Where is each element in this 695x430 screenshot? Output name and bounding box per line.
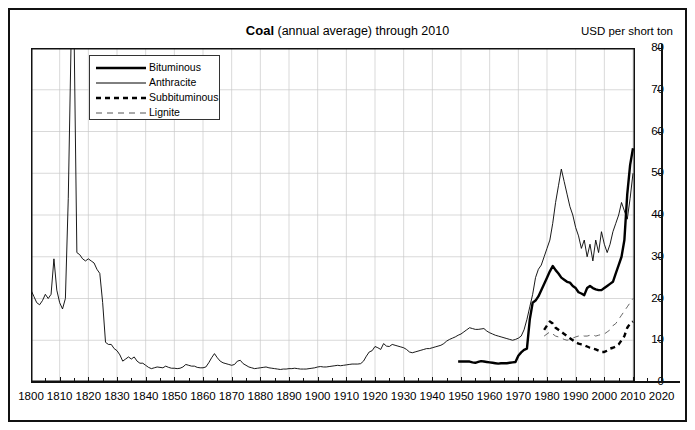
y-tick-mark (657, 299, 662, 300)
x-tick-mark (117, 377, 118, 382)
x-tick-mark (60, 377, 61, 382)
x-tick-mark (576, 377, 577, 382)
legend-item[interactable]: Subbituminous (90, 90, 219, 105)
x-tick-mark (604, 377, 605, 382)
x-tick-mark (404, 377, 405, 382)
legend-item[interactable]: Lignite (90, 105, 219, 120)
legend-line-swatch (95, 76, 147, 90)
x-minor-tick-mark (217, 378, 218, 382)
x-minor-tick-mark (418, 378, 419, 382)
y-tick-mark (657, 382, 662, 383)
y-tick-mark (657, 257, 662, 258)
x-axis-tick-labels: 1800181018201830184018501860187018801890… (0, 390, 695, 410)
x-minor-tick-mark (619, 378, 620, 382)
legend-item[interactable]: Anthracite (90, 75, 219, 90)
x-minor-tick-mark (533, 378, 534, 382)
x-minor-tick-mark (275, 378, 276, 382)
y-tick-mark (657, 215, 662, 216)
x-tick-label: 2020 (645, 390, 679, 402)
x-minor-tick-mark (74, 378, 75, 382)
x-tick-mark (174, 377, 175, 382)
x-tick-mark (31, 377, 32, 382)
x-minor-tick-mark (647, 378, 648, 382)
x-minor-tick-mark (103, 378, 104, 382)
x-minor-tick-mark (504, 378, 505, 382)
x-tick-mark (375, 377, 376, 382)
legend-item-label: Bituminous (149, 62, 201, 73)
x-tick-mark (88, 377, 89, 382)
x-minor-tick-mark (389, 378, 390, 382)
legend-line-swatch (95, 61, 147, 75)
x-tick-mark (318, 377, 319, 382)
x-tick-mark (633, 377, 634, 382)
x-tick-mark (146, 377, 147, 382)
x-tick-mark (346, 377, 347, 382)
legend-item-label: Subbituminous (149, 92, 218, 103)
x-tick-mark (260, 377, 261, 382)
chart-legend: BituminousAnthraciteSubbituminousLignite (89, 55, 220, 120)
y-tick-mark (657, 173, 662, 174)
x-minor-tick-mark (361, 378, 362, 382)
x-minor-tick-mark (447, 378, 448, 382)
x-minor-tick-mark (332, 378, 333, 382)
x-minor-tick-mark (303, 378, 304, 382)
chart-title-rest: (annual average) through 2010 (278, 24, 450, 38)
x-minor-tick-mark (189, 378, 190, 382)
chart-screenshot: Coal (annual average) through 2010 USD p… (0, 0, 695, 430)
x-tick-mark (547, 377, 548, 382)
x-tick-mark (289, 377, 290, 382)
chart-title-bold: Coal (246, 23, 274, 38)
y-tick-mark (657, 132, 662, 133)
x-minor-tick-mark (131, 378, 132, 382)
x-tick-mark (203, 377, 204, 382)
x-tick-mark (232, 377, 233, 382)
x-minor-tick-mark (160, 378, 161, 382)
x-minor-tick-mark (590, 378, 591, 382)
x-minor-tick-mark (561, 378, 562, 382)
x-tick-mark (490, 377, 491, 382)
x-minor-tick-mark (246, 378, 247, 382)
legend-line-swatch (95, 91, 147, 105)
legend-item-label: Lignite (149, 107, 180, 118)
x-tick-mark (518, 377, 519, 382)
legend-line-swatch (95, 106, 147, 120)
x-tick-mark (461, 377, 462, 382)
y-tick-mark (657, 90, 662, 91)
y-tick-mark (657, 340, 662, 341)
y-tick-mark (657, 48, 662, 49)
x-axis-line (31, 381, 680, 383)
x-tick-mark (432, 377, 433, 382)
y-axis-line (661, 44, 663, 383)
legend-item-label: Anthracite (149, 77, 196, 88)
legend-item[interactable]: Bituminous (90, 60, 219, 75)
x-minor-tick-mark (475, 378, 476, 382)
x-minor-tick-mark (45, 378, 46, 382)
